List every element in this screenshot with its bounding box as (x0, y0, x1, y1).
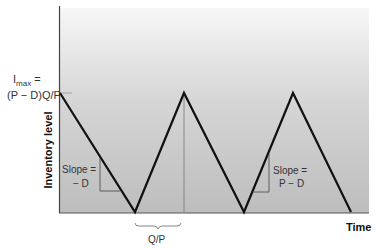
imax-sub: max (16, 79, 31, 88)
plot-area (60, 8, 369, 213)
x-axis-label: Time (346, 222, 371, 233)
imax-formula: (P − D)Q/P (7, 90, 61, 101)
slope-down-label-2: − D (73, 178, 89, 189)
slope-up-label-1: Slope = (273, 165, 307, 176)
y-axis-label: Inventory level (43, 111, 54, 188)
brace-label: Q/P (148, 234, 165, 245)
imax-label: Imax = (13, 74, 41, 89)
imax-eq: = (31, 73, 40, 85)
qp-brace (135, 223, 181, 229)
slope-down-label-1: Slope = (62, 164, 96, 175)
inventory-chart (0, 0, 376, 248)
slope-up-label-2: P − D (279, 178, 304, 189)
